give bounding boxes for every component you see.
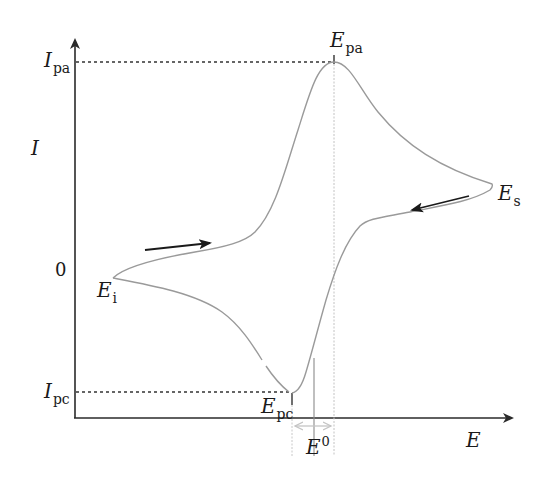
cathodic-sweep-curve-return-upper — [113, 278, 262, 360]
epa-label: Epa — [330, 30, 363, 50]
e0-label: E0 — [306, 437, 330, 457]
x-axis-label: E — [466, 430, 481, 450]
forward-scan-arrow — [145, 243, 210, 250]
es-label: Es — [498, 183, 521, 203]
reverse-scan-arrow — [412, 196, 469, 210]
zero-label: 0 — [55, 261, 66, 279]
cathodic-sweep-curve-return — [266, 366, 289, 392]
ei-label: Ei — [97, 280, 117, 300]
epc-label: Epc — [261, 396, 293, 416]
ipc-label: Ipc — [44, 381, 70, 401]
cyclic-voltammogram-diagram: Ipa I 0 Ipc Epa Es Ei Epc E0 E — [0, 0, 542, 481]
ipa-label: Ipa — [44, 50, 70, 70]
cathodic-sweep-curve — [292, 190, 490, 393]
anodic-sweep-curve — [113, 62, 492, 278]
y-axis-label: I — [31, 138, 39, 158]
